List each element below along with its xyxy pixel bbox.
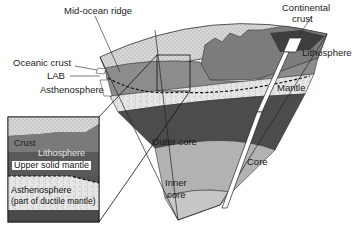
label-asthenosphere: Asthenosphere	[40, 85, 104, 95]
inset-label-upper-solid-mantle: Upper solid mantle	[12, 161, 91, 170]
label-continental-crust-1: Continental	[282, 3, 330, 13]
label-inner-core-2: core	[167, 190, 185, 200]
label-mantle: Mantle	[277, 83, 306, 93]
label-outer-core: Outer core	[152, 137, 197, 147]
inset-label-asthenosphere: Asthenosphere	[11, 186, 72, 195]
label-inner-core-1: Inner	[165, 178, 187, 188]
label-mid-ocean-ridge: Mid-ocean ridge	[64, 6, 132, 16]
inset-label-ductile-note: (part of ductile mantle)	[11, 197, 96, 206]
inset-label-lithosphere: Lithosphere	[38, 149, 85, 158]
label-continental-crust-2: crust	[292, 14, 313, 24]
label-core: Core	[247, 157, 268, 167]
label-oceanic-crust: Oceanic crust	[13, 58, 71, 68]
inset-label-crust: Crust	[14, 139, 36, 148]
label-lithosphere: Lithosphere	[302, 48, 352, 58]
label-lab: LAB	[47, 71, 65, 81]
